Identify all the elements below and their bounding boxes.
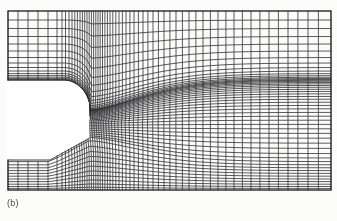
- figure-caption-label: (b): [7, 198, 19, 209]
- mesh-plot-canvas: [0, 0, 337, 221]
- figure-container: (b): [0, 0, 337, 221]
